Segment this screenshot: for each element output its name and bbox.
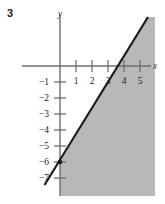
shaded-region-polygon: [45, 17, 156, 196]
x-tick-label-2: 2: [90, 76, 95, 86]
y-tick-label-minus1: −1: [39, 77, 49, 87]
y-tick-label-minus6: −6: [39, 157, 49, 167]
shaded-region: [45, 17, 156, 196]
x-tick-label-5: 5: [138, 76, 143, 86]
y-axis-label: y: [57, 9, 63, 19]
figure-container: 3 1 2 3 4 5 x: [0, 0, 165, 204]
x-tick-label-4: 4: [122, 76, 127, 86]
x-tick-label-1: 1: [74, 76, 79, 86]
y-tick-label-minus3: −3: [39, 109, 49, 119]
y-tick-label-minus4: −4: [39, 125, 49, 135]
marked-point-0-minus6: [58, 160, 63, 165]
y-tick-label-minus5: −5: [39, 141, 49, 151]
coordinate-plane-graph: 1 2 3 4 5 x −1 −2 −3 −4 −5 −6: [0, 0, 165, 204]
y-tick-label-minus2: −2: [39, 93, 49, 103]
x-axis-label: x: [152, 61, 158, 71]
